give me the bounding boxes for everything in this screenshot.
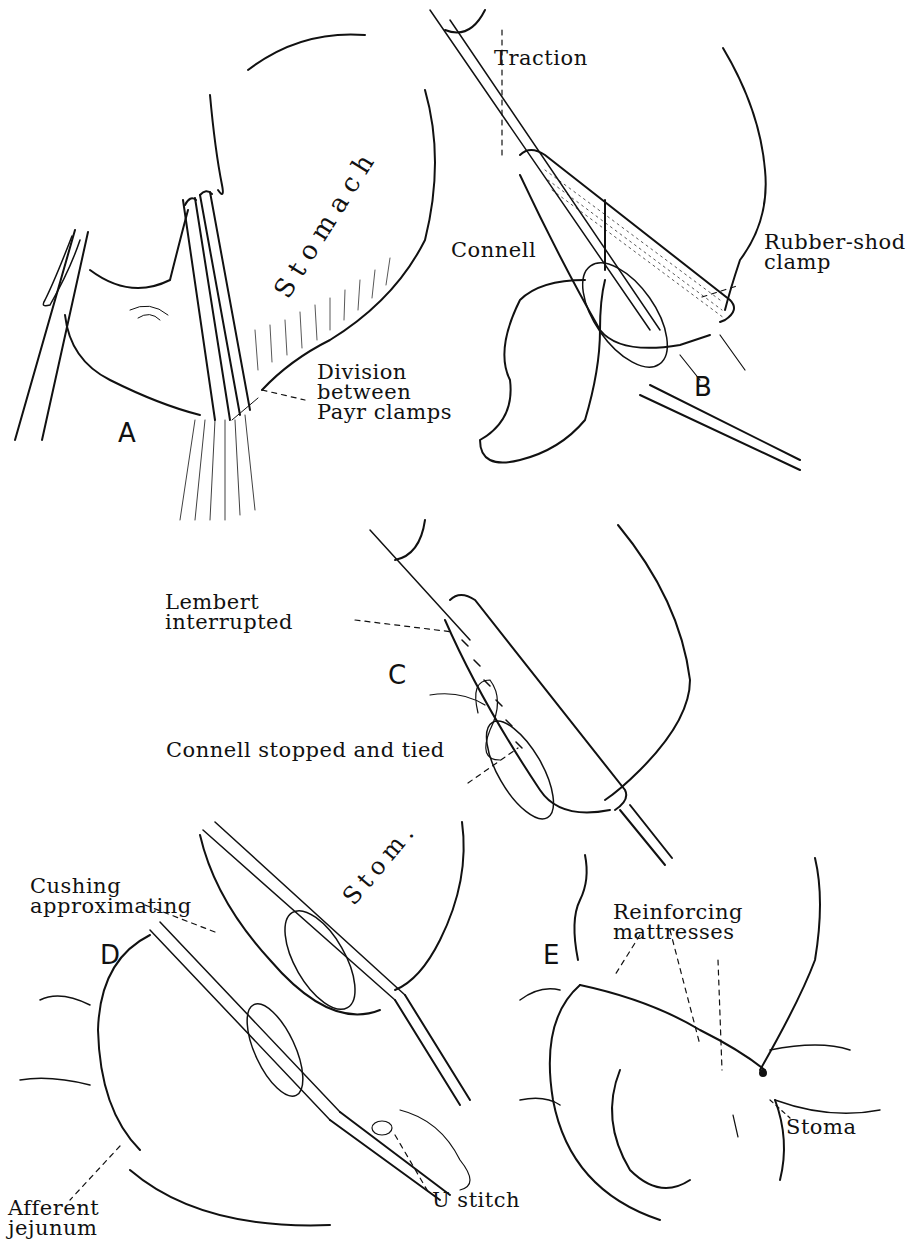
label-u-stitch: U stitch (432, 1190, 520, 1210)
label-connell-stopped-and-tied: Connell stopped and tied (166, 740, 445, 760)
panel-a-drawing (15, 34, 435, 520)
panel-label-e: E (543, 940, 559, 970)
label-division-between-payr-clamps: Division between Payr clamps (317, 362, 452, 422)
panel-c-drawing (355, 520, 690, 865)
label-afferent-jejunum: Afferent jejunum (8, 1198, 99, 1238)
label-cushing-approximating: Cushing approximating (30, 876, 192, 916)
panel-label-a: A (118, 418, 136, 448)
label-traction: Traction (494, 48, 588, 68)
label-connell: Connell (451, 240, 536, 260)
label-lembert-interrupted: Lembert interrupted (165, 592, 293, 632)
line-art-drawing (0, 0, 923, 1257)
label-stoma: Stoma (786, 1117, 856, 1137)
panel-label-c: C (388, 660, 406, 690)
panel-label-d: D (100, 940, 120, 970)
illustration-canvas: Traction Stomach Connell Rubber-shod cla… (0, 0, 923, 1257)
label-rubber-shod-clamp: Rubber-shod clamp (764, 232, 906, 272)
panel-label-b: B (694, 372, 712, 402)
label-reinforcing-mattresses: Reinforcing mattresses (613, 902, 743, 942)
